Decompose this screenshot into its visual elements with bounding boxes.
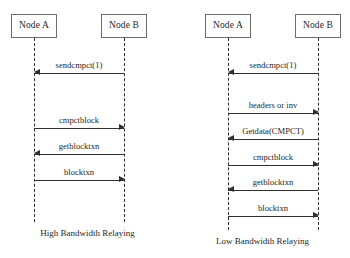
message-line xyxy=(34,154,124,155)
message-label: blocktxn xyxy=(34,168,124,177)
sequence-diagram-figure: Node A Node B sendcmpct(1) cmpctblock ge… xyxy=(0,0,350,258)
message-line xyxy=(228,216,318,217)
diagram-caption: Low Bandwidth Relaying xyxy=(175,237,350,246)
arrowhead-right-icon xyxy=(119,176,125,182)
arrowhead-left-icon xyxy=(34,69,40,75)
participant-box-node-a: Node A xyxy=(11,14,57,38)
message-label: blocktxn xyxy=(228,204,318,213)
participant-label: Node B xyxy=(303,21,333,31)
message-label: sendcmpct(1) xyxy=(34,61,124,70)
message-line xyxy=(228,73,318,74)
message-line xyxy=(34,73,124,74)
message-label: Getdata(CMPCT) xyxy=(228,127,318,136)
message-label: sendcmpct(1) xyxy=(228,61,318,70)
arrowhead-right-icon xyxy=(313,161,319,167)
arrowhead-left-icon xyxy=(228,69,234,75)
arrowhead-left-icon xyxy=(34,150,40,156)
message-line xyxy=(34,180,124,181)
message-line xyxy=(228,165,318,166)
message-line xyxy=(228,113,318,114)
arrowhead-left-icon xyxy=(228,186,234,192)
arrowhead-right-icon xyxy=(313,109,319,115)
participant-box-node-a: Node A xyxy=(205,14,251,38)
arrowhead-right-icon xyxy=(313,212,319,218)
message-line xyxy=(34,128,124,129)
participant-label: Node A xyxy=(19,21,49,31)
participant-box-node-b: Node B xyxy=(101,14,147,38)
diagram-low-bandwidth: Node A Node B sendcmpct(1) headers or in… xyxy=(175,0,350,258)
message-line xyxy=(228,139,318,140)
message-label: getblocktxn xyxy=(34,142,124,151)
arrowhead-left-icon xyxy=(228,135,234,141)
message-line xyxy=(228,190,318,191)
message-label: headers or inv xyxy=(228,101,318,110)
participant-label: Node A xyxy=(213,21,243,31)
participant-box-node-b: Node B xyxy=(295,14,341,38)
diagram-high-bandwidth: Node A Node B sendcmpct(1) cmpctblock ge… xyxy=(0,0,175,258)
participant-label: Node B xyxy=(109,21,139,31)
arrowhead-right-icon xyxy=(119,124,125,130)
message-label: getblocktxn xyxy=(228,178,318,187)
message-label: cmpctblock xyxy=(34,116,124,125)
message-label: cmpctblock xyxy=(228,153,318,162)
lifeline-node-b xyxy=(318,38,319,230)
diagram-caption: High Bandwidth Relaying xyxy=(0,229,175,238)
